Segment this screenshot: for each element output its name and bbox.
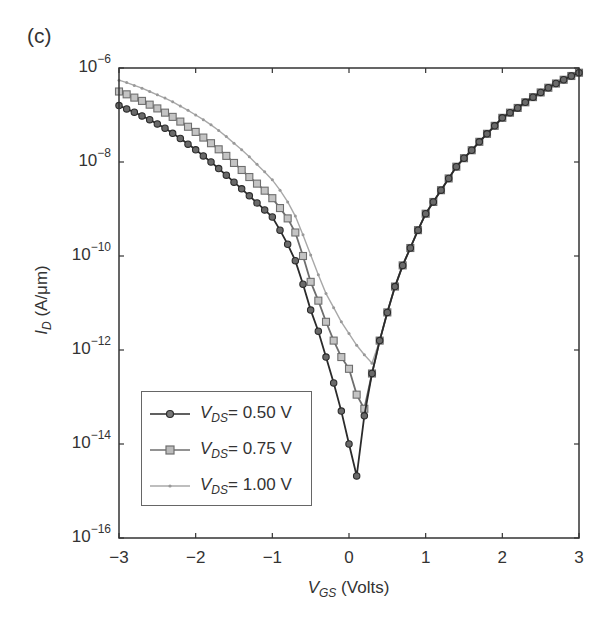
x-tick-label: 2: [482, 548, 522, 568]
y-axis-var: I: [32, 330, 51, 335]
legend-label: VDS= 0.50 V: [200, 403, 292, 423]
y-tick-label: 10−16: [31, 524, 111, 547]
x-axis-title: VGS (Volts): [0, 578, 607, 598]
legend-item-vds-075: VDS= 0.75 V: [142, 435, 313, 465]
legend-label: VDS= 1.00 V: [200, 475, 292, 495]
legend-swatch-square-icon: [150, 435, 190, 465]
y-axis-unit: (A/μm): [32, 265, 51, 316]
x-tick-label: 0: [329, 548, 369, 568]
x-tick-label: −1: [252, 548, 292, 568]
series-square: [116, 69, 583, 412]
x-axis-var: V: [308, 578, 319, 597]
y-tick-label: 10−6: [31, 54, 111, 77]
x-axis-sub: GS: [319, 586, 336, 600]
x-tick-label: −3: [99, 548, 139, 568]
legend: VDS= 0.50 V VDS= 0.75 V VDS= 1.00 V: [141, 391, 312, 506]
legend-swatch-dot-icon: [150, 471, 190, 501]
legend-label: VDS= 0.75 V: [200, 439, 292, 459]
legend-swatch-circle-icon: [150, 399, 190, 429]
y-axis-title: ID (A/μm): [32, 200, 52, 400]
y-tick-label: 10−8: [31, 148, 111, 171]
y-tick-label: 10−14: [31, 430, 111, 453]
legend-item-vds-100: VDS= 1.00 V: [142, 471, 313, 501]
y-axis-sub: D: [40, 321, 54, 330]
panel-label: (c): [27, 24, 52, 48]
x-tick-label: 1: [406, 548, 446, 568]
x-tick-label: −2: [176, 548, 216, 568]
legend-item-vds-050: VDS= 0.50 V: [142, 399, 313, 429]
x-axis-unit: (Volts): [341, 578, 389, 597]
x-tick-label: 3: [559, 548, 599, 568]
